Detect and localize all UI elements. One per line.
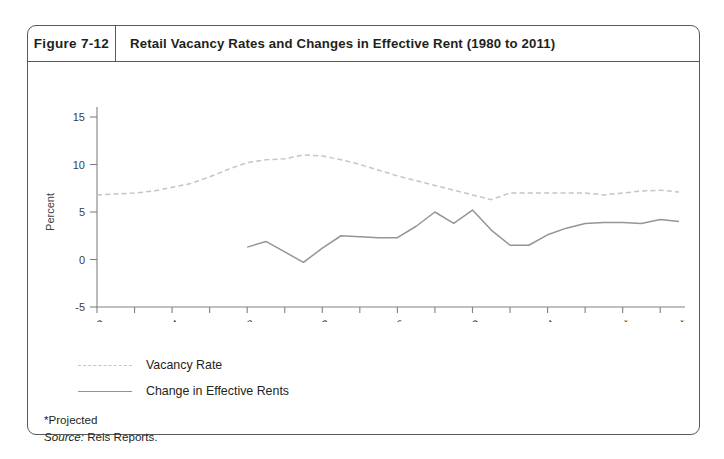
figure-title-cell: Retail Vacancy Rates and Changes in Effe…: [116, 26, 699, 61]
footnote-projected: *Projected: [44, 412, 157, 429]
legend-item-change-in-effective-rents: Change in Effective Rents: [78, 378, 478, 404]
legend-swatch-vacancy-rate: [78, 365, 132, 366]
series-line-vacancy-rate: [97, 155, 679, 200]
y-axis-title: Percent: [44, 193, 56, 231]
series-group: [97, 155, 679, 262]
y-tick-label-0: 0: [79, 254, 85, 266]
legend-swatch-change-in-effective-rents: [78, 391, 132, 392]
figure-frame: Figure 7-12 Retail Vacancy Rates and Cha…: [27, 25, 700, 435]
figure-number: Figure 7-12: [34, 36, 109, 51]
y-tick-label-5: 5: [79, 206, 85, 218]
x-tick-label-2004: 2004: [528, 317, 557, 322]
figure-header: Figure 7-12 Retail Vacancy Rates and Cha…: [28, 26, 699, 62]
x-tick-label-2011: 2011*: [657, 317, 689, 322]
chart-body: -5051015Percent1980198419881992199620002…: [28, 62, 699, 434]
x-tick-label-1980: 1980: [78, 317, 106, 322]
axis-labels-group: -5051015Percent1980198419881992199620002…: [44, 111, 688, 322]
legend-label-change-in-effective-rents: Change in Effective Rents: [146, 384, 289, 398]
y-tick-label-10: 10: [73, 159, 85, 171]
legend-item-vacancy-rate: Vacancy Rate: [78, 352, 478, 378]
series-line-change-in-effective-rents: [247, 210, 679, 262]
y-tick-label-15: 15: [73, 111, 85, 123]
footnote-source: Source: Reis Reports.: [44, 429, 157, 446]
x-tick-label-2000: 2000: [453, 317, 481, 322]
x-tick-label-2008: 2008*: [600, 317, 632, 322]
y-tick-label--5: -5: [75, 301, 85, 313]
footnote-source-label: Source:: [44, 430, 84, 443]
chart-legend: Vacancy Rate Change in Effective Rents: [78, 352, 478, 404]
axes-group: [90, 107, 685, 313]
figure-footnotes: *Projected Source: Reis Reports.: [44, 412, 157, 446]
x-tick-label-1984: 1984: [153, 317, 182, 322]
legend-label-vacancy-rate: Vacancy Rate: [146, 358, 222, 372]
x-tick-label-1992: 1992: [303, 317, 331, 322]
figure-number-cell: Figure 7-12: [28, 26, 116, 61]
x-tick-label-1988: 1988: [228, 317, 256, 322]
x-tick-label-1996: 1996: [378, 317, 406, 322]
footnote-source-value: Reis Reports.: [87, 430, 157, 443]
figure-title: Retail Vacancy Rates and Changes in Effe…: [130, 36, 555, 51]
chart-plot-area: -5051015Percent1980198419881992199620002…: [28, 62, 701, 322]
